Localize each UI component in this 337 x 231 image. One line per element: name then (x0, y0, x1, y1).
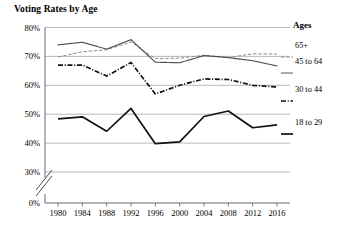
legend-title: Ages (293, 20, 337, 31)
legend-item-label: 30 to 44 (295, 84, 322, 95)
x-axis-tick-label: 1996 (147, 208, 164, 218)
legend-item[interactable]: 18 to 29 (283, 117, 337, 128)
x-axis-tick-label: 2016 (269, 208, 286, 218)
legend-swatch-icon (281, 45, 293, 49)
chart-legend: Ages 65+45 to 6430 to 4418 to 29 (283, 20, 337, 31)
x-axis-tick-label: 2004 (196, 208, 214, 218)
y-axis-tick-label: 0% (29, 198, 40, 208)
legend-item-label: 65+ (295, 40, 308, 51)
series-line-45-to-64 (58, 40, 277, 66)
x-axis-tick-label: 2008 (220, 208, 237, 218)
x-axis-tick-label: 1988 (98, 208, 115, 218)
x-axis-tick-label: 1992 (123, 208, 140, 218)
legend-item[interactable]: 30 to 44 (283, 84, 337, 95)
legend-item[interactable]: 45 to 64 (283, 56, 337, 67)
y-axis-tick-label: 40% (24, 138, 40, 148)
y-axis-tick-label: 50% (24, 109, 40, 119)
series-line-18-to-29 (58, 108, 277, 143)
x-axis-tick-label: 2012 (244, 208, 261, 218)
y-axis-tick-label: 70% (24, 51, 40, 61)
y-axis-tick-label: 60% (24, 80, 40, 90)
legend-swatch-icon (281, 122, 293, 126)
legend-item[interactable]: 65+ (283, 40, 337, 51)
plot-area: 0%30%40%50%60%70%80%19801984198819921996… (0, 0, 337, 231)
x-axis-tick-label: 1980 (50, 208, 67, 218)
legend-swatch-icon (281, 89, 293, 93)
voting-rates-chart: Voting Rates by Age 0%30%40%50%60%70%80%… (0, 0, 337, 231)
x-axis-tick-label: 2000 (171, 208, 188, 218)
legend-item-label: 45 to 64 (295, 56, 322, 67)
legend-swatch-icon (281, 61, 293, 65)
axis-break-slash (36, 176, 52, 196)
legend-item-label: 18 to 29 (295, 117, 322, 128)
x-axis-tick-label: 1984 (74, 208, 92, 218)
y-axis-tick-label: 30% (24, 167, 40, 177)
series-line-30-to-44 (58, 62, 277, 94)
y-axis-tick-label: 80% (24, 23, 40, 33)
